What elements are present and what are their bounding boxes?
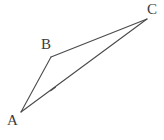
vertex-label-b: B — [41, 37, 51, 52]
vertex-label-c: C — [147, 2, 157, 17]
geometry-figure: A B C — [0, 0, 164, 140]
segment-bc — [51, 19, 147, 57]
segment-ab — [21, 57, 51, 112]
vertex-label-a: A — [7, 113, 18, 128]
segment-ac — [21, 19, 147, 112]
triangle-diagram-svg — [0, 0, 164, 140]
